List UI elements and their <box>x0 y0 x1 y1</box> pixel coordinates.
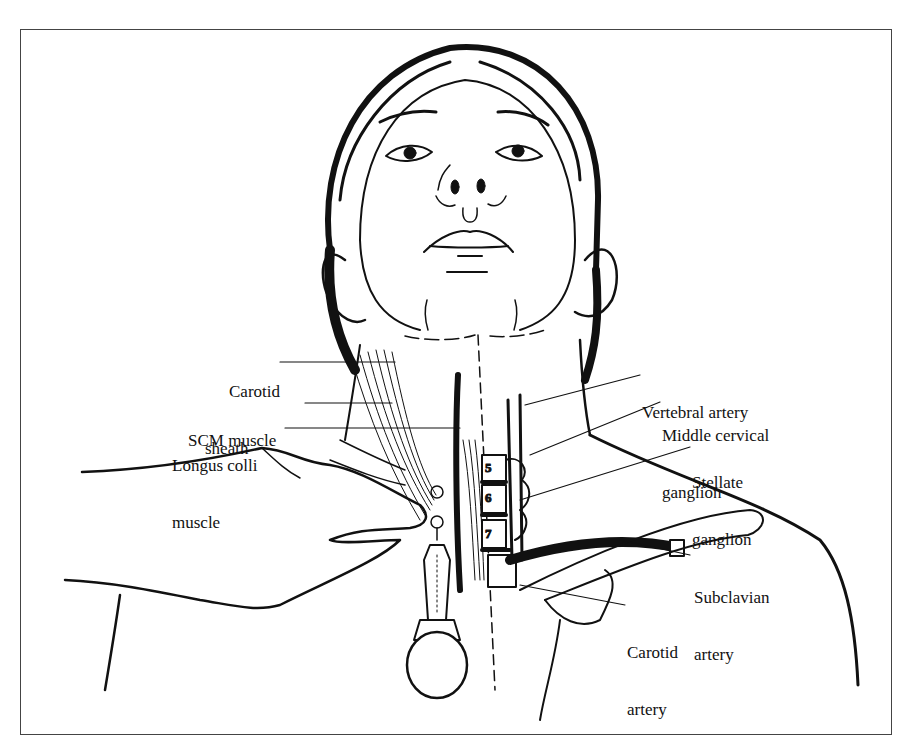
label-stellate-ganglion: Stellate ganglion <box>692 435 752 568</box>
landmark-circle-upper <box>431 486 443 498</box>
face <box>360 80 575 340</box>
label-carotid-artery: Carotid artery <box>627 605 678 738</box>
landmark-circle-lower <box>431 516 443 528</box>
carotid-vessel <box>456 375 460 590</box>
vertebra-c6: 6 <box>485 490 492 505</box>
anatomical-illustration: 5 6 7 <box>0 0 911 748</box>
longus-colli-hatching <box>463 440 484 580</box>
vertebra-c7: 7 <box>485 526 492 541</box>
ears <box>323 249 617 321</box>
vertebra-c5: 5 <box>485 460 492 475</box>
label-longus-colli-muscle: Longus colli muscle <box>172 418 257 551</box>
label-subclavian-artery: Subclavian artery <box>694 550 770 683</box>
vertebral-artery-vessel <box>508 395 522 560</box>
